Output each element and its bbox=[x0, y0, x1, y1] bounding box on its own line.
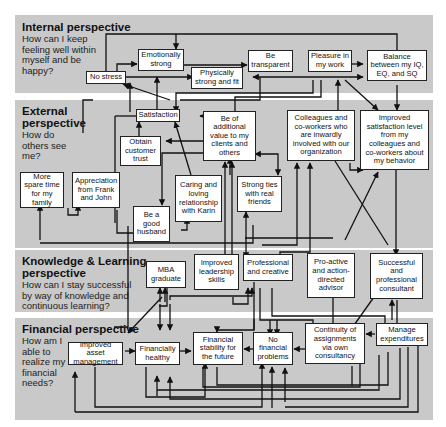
financial-title: Financial perspective bbox=[22, 323, 139, 335]
knowledge-title: Knowledge & Learning perspective bbox=[22, 255, 147, 279]
node-mba-graduate[interactable]: MBA graduate bbox=[146, 261, 186, 288]
node-obtain-trust[interactable]: Obtain customer trust bbox=[120, 136, 161, 166]
external-question: How do others see me? bbox=[22, 130, 82, 162]
financial-question: How am I able to realize my financial ne… bbox=[22, 336, 72, 389]
internal-question: How can I keep feeling well within mysel… bbox=[22, 34, 104, 76]
node-appreciation[interactable]: Appreciation from Frank and John bbox=[72, 172, 120, 208]
node-no-financial-problems[interactable]: No financial problems bbox=[253, 332, 293, 365]
node-financial-stability[interactable]: Financial stability for the future bbox=[193, 332, 243, 365]
external-title: External perspective bbox=[22, 105, 92, 129]
node-good-husband[interactable]: Be a good husband bbox=[133, 206, 170, 242]
node-improved-satisfaction[interactable]: Improved satisfaction level from my coll… bbox=[360, 110, 429, 170]
node-leadership-skills[interactable]: Improved leadership skills bbox=[194, 254, 239, 290]
node-asset-management[interactable]: Improved asset management bbox=[68, 342, 123, 365]
node-no-stress[interactable]: No stress bbox=[86, 71, 126, 84]
node-proactive-advisor[interactable]: Pro-active and action-directed advisor bbox=[307, 253, 355, 298]
internal-title: Internal perspective bbox=[22, 21, 131, 33]
knowledge-question: How can I stay successful by way of know… bbox=[22, 280, 132, 312]
node-manage-expenditures[interactable]: Manage expenditures bbox=[376, 323, 428, 346]
node-strong-ties[interactable]: Strong ties with real friends bbox=[237, 176, 282, 212]
node-professional-creative[interactable]: Professional and creative bbox=[243, 254, 293, 281]
node-more-spare-time[interactable]: More spare time for my family bbox=[20, 172, 64, 208]
node-colleagues-involved[interactable]: Colleagues and co-workers who are inward… bbox=[287, 110, 355, 161]
node-additional-value[interactable]: Be of additional value to my clients and… bbox=[203, 111, 256, 161]
node-satisfaction[interactable]: Satisfaction bbox=[136, 109, 180, 122]
node-emotionally-strong[interactable]: Emotionally strong bbox=[138, 49, 184, 71]
node-financially-healthy[interactable]: Financially healthy bbox=[135, 342, 180, 365]
node-physically-strong[interactable]: Physically strong and fit bbox=[191, 67, 243, 89]
node-balance[interactable]: Balance between my IQ, EQ, and SQ bbox=[367, 50, 427, 81]
node-successful-consultant[interactable]: Successful and professional consultant bbox=[370, 253, 423, 299]
node-be-transparent[interactable]: Be transparent bbox=[248, 50, 293, 72]
node-pleasure-in-work[interactable]: Pleasure in my work bbox=[308, 50, 352, 72]
node-continuity-assignments[interactable]: Continuity of assignments via own consul… bbox=[305, 323, 365, 364]
node-caring-relationship[interactable]: Caring and loving relationship with Kari… bbox=[175, 175, 222, 222]
